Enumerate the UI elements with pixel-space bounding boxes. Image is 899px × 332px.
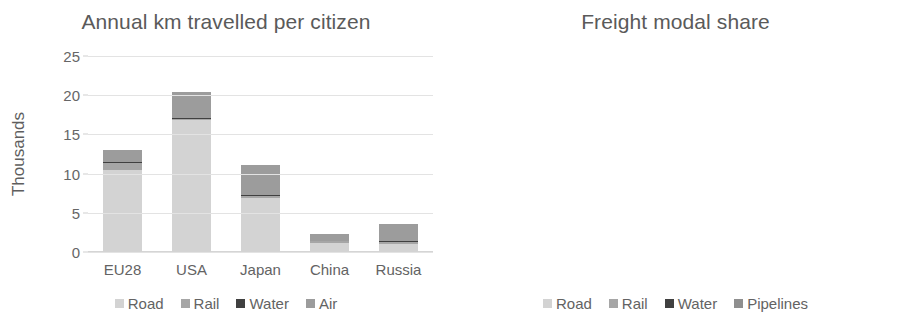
- bar-segment-road[interactable]: [241, 198, 280, 252]
- chart-title-left: Annual km travelled per citizen: [0, 0, 452, 38]
- legend-item-pipelines[interactable]: Pipelines: [734, 295, 808, 312]
- plot-area-left: EU28USAJapanChinaRussia 0510152025: [88, 56, 433, 252]
- bar-segment-rail[interactable]: [103, 163, 142, 171]
- stacked-bar-figure: Annual km travelled per citizen Thousand…: [0, 0, 899, 332]
- stacked-bar-china[interactable]: [310, 234, 349, 252]
- legend-label: Air: [319, 295, 337, 312]
- legend-label: Water: [678, 295, 717, 312]
- legend-item-rail[interactable]: Rail: [181, 295, 220, 312]
- legend-swatch-rail-icon: [609, 299, 618, 308]
- y-tick-label: 15: [63, 126, 80, 143]
- legend-swatch-water-icon: [236, 299, 245, 308]
- bar-segment-air[interactable]: [379, 224, 418, 241]
- gridline: [88, 252, 433, 253]
- bar-slot: [157, 56, 226, 252]
- stacked-bar-russia[interactable]: [379, 224, 418, 252]
- gridline: [88, 56, 433, 57]
- y-axis-label-text-left: Thousands: [9, 112, 29, 196]
- legend-swatch-air-icon: [306, 299, 315, 308]
- gridline: [88, 95, 433, 96]
- bar-segment-air[interactable]: [103, 150, 142, 162]
- bar-slot: [88, 56, 157, 252]
- legend-item-road[interactable]: Road: [115, 295, 164, 312]
- bar-segment-road[interactable]: [310, 243, 349, 252]
- bar-group-left: [88, 56, 433, 252]
- y-tick-mark: [83, 252, 88, 253]
- legend-swatch-rail-icon: [181, 299, 190, 308]
- y-tick-mark: [83, 173, 88, 174]
- y-tick-label: 20: [63, 87, 80, 104]
- stacked-bar-japan[interactable]: [241, 165, 280, 252]
- chart-panel-annual-km: Annual km travelled per citizen Thousand…: [0, 0, 452, 332]
- chart-title-right: Freight modal share: [452, 0, 899, 38]
- bar-slot: [364, 56, 433, 252]
- y-tick-mark: [83, 95, 88, 96]
- legend-item-water[interactable]: Water: [236, 295, 288, 312]
- legend-item-water[interactable]: Water: [665, 295, 717, 312]
- stacked-bar-usa[interactable]: [172, 92, 211, 252]
- x-axis-label-russia: Russia: [364, 252, 433, 278]
- gridline: [88, 134, 433, 135]
- y-tick-label: 5: [72, 204, 80, 221]
- y-tick-mark: [83, 56, 88, 57]
- bar-segment-air[interactable]: [241, 165, 280, 195]
- chart-panel-freight-share: Freight modal share EU28USAJapanChinaRus…: [452, 0, 899, 332]
- x-axis-label-usa: USA: [157, 252, 226, 278]
- legend-label: Rail: [194, 295, 220, 312]
- y-tick-mark: [83, 212, 88, 213]
- legend-left: RoadRailWaterAir: [0, 295, 452, 312]
- legend-label: Road: [556, 295, 592, 312]
- x-axis-label-eu28: EU28: [88, 252, 157, 278]
- y-tick-mark: [83, 134, 88, 135]
- y-tick-label: 0: [72, 244, 80, 261]
- bar-segment-road[interactable]: [379, 244, 418, 252]
- gridline: [88, 213, 433, 214]
- bar-segment-road[interactable]: [172, 120, 211, 252]
- legend-item-rail[interactable]: Rail: [609, 295, 648, 312]
- legend-swatch-water-icon: [665, 299, 674, 308]
- bar-slot: [226, 56, 295, 252]
- legend-label: Rail: [622, 295, 648, 312]
- y-tick-label: 10: [63, 165, 80, 182]
- legend-swatch-pipelines-icon: [734, 299, 743, 308]
- legend-item-road[interactable]: Road: [543, 295, 592, 312]
- legend-swatch-road-icon: [543, 299, 552, 308]
- x-axis-label-japan: Japan: [226, 252, 295, 278]
- legend-swatch-road-icon: [115, 299, 124, 308]
- legend-label: Water: [249, 295, 288, 312]
- x-axis-labels-left: EU28USAJapanChinaRussia: [88, 252, 433, 278]
- gridline: [88, 174, 433, 175]
- legend-right: RoadRailWaterPipelines: [452, 295, 899, 312]
- x-axis-label-china: China: [295, 252, 364, 278]
- bar-slot: [295, 56, 364, 252]
- y-axis-label-left: Thousands: [8, 56, 30, 252]
- legend-label: Pipelines: [747, 295, 808, 312]
- legend-label: Road: [128, 295, 164, 312]
- stacked-bar-eu28[interactable]: [103, 150, 142, 252]
- legend-item-air[interactable]: Air: [306, 295, 337, 312]
- bar-segment-road[interactable]: [103, 170, 142, 252]
- y-tick-label: 25: [63, 48, 80, 65]
